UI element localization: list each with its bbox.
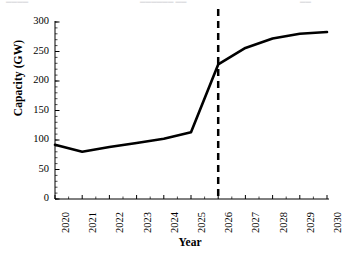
x-tick-label: 2020 <box>60 212 71 233</box>
y-tick-label: 50 <box>19 163 49 174</box>
axes-group <box>55 21 329 199</box>
figure-canvas: ▁▁▁▁ ▁▁▁▁▁▁ ▁▁ ▁▁ Capacity (GW) Year 050… <box>0 0 348 253</box>
x-tick-label: 2025 <box>196 212 207 233</box>
y-tick-label: 150 <box>19 104 49 115</box>
x-tick-label: 2028 <box>278 212 289 233</box>
y-tick-label: 200 <box>19 74 49 85</box>
x-tick-label: 2022 <box>114 212 125 233</box>
series-group <box>55 32 327 152</box>
y-tick-label: 250 <box>19 45 49 56</box>
x-tick-label: 2026 <box>223 212 234 233</box>
y-tick-label: 100 <box>19 133 49 144</box>
x-tick-label: 2021 <box>87 212 98 233</box>
x-tick-label: 2023 <box>142 212 153 233</box>
y-tick-label: 300 <box>19 15 49 26</box>
x-tick-label: 2024 <box>169 212 180 233</box>
y-tick-label: 0 <box>19 192 49 203</box>
x-tick-label: 2030 <box>332 212 343 233</box>
x-tick-label: 2029 <box>305 212 316 233</box>
series-line-capacity <box>55 32 327 152</box>
x-tick-label: 2027 <box>250 212 261 233</box>
